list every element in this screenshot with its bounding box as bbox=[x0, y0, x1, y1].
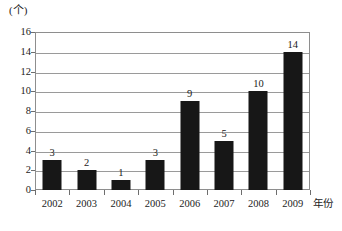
x-tick-label: 2004 bbox=[104, 198, 138, 210]
x-tick-label: 2002 bbox=[35, 198, 69, 210]
x-tick-mark bbox=[138, 190, 139, 195]
bar-value-label: 14 bbox=[288, 39, 299, 50]
bar-value-label: 3 bbox=[50, 147, 55, 158]
y-tick-label: 12 bbox=[5, 67, 31, 77]
bar-group: 1 bbox=[104, 32, 138, 190]
bar-value-label: 10 bbox=[253, 78, 264, 89]
y-tick-label: 2 bbox=[5, 165, 31, 175]
bar-value-label: 1 bbox=[118, 167, 123, 178]
bar-value-label: 2 bbox=[84, 157, 89, 168]
y-tick-label: 16 bbox=[5, 27, 31, 37]
bar-group: 14 bbox=[276, 32, 310, 190]
x-tick-mark bbox=[173, 190, 174, 195]
x-tick-label: 2008 bbox=[241, 198, 275, 210]
bar-group: 3 bbox=[138, 32, 172, 190]
bar-group: 10 bbox=[241, 32, 275, 190]
x-tick-label: 2003 bbox=[69, 198, 103, 210]
x-tick-label: 2009 bbox=[276, 198, 310, 210]
y-tick-label: 4 bbox=[5, 146, 31, 156]
x-tick-mark bbox=[310, 190, 311, 195]
x-tick-mark bbox=[69, 190, 70, 195]
bar[interactable] bbox=[77, 170, 96, 190]
bar-chart: (个) 1614121086420 3213951014 20022003200… bbox=[0, 0, 342, 231]
x-axis-title: 年份 bbox=[313, 198, 333, 210]
bar-group: 5 bbox=[207, 32, 241, 190]
bar[interactable] bbox=[249, 91, 268, 190]
bar-group: 3 bbox=[35, 32, 69, 190]
bar[interactable] bbox=[180, 101, 199, 190]
y-axis-unit-label: (个) bbox=[9, 4, 27, 17]
bar[interactable] bbox=[111, 180, 130, 190]
bar[interactable] bbox=[283, 52, 302, 190]
bar[interactable] bbox=[146, 160, 165, 190]
x-tick-mark bbox=[104, 190, 105, 195]
bars-layer: 3213951014 bbox=[35, 32, 310, 190]
y-tick-label: 0 bbox=[5, 185, 31, 195]
bar-value-label: 5 bbox=[221, 128, 226, 139]
y-tick-label: 8 bbox=[5, 106, 31, 116]
x-tick-mark bbox=[35, 190, 36, 195]
x-tick-mark bbox=[276, 190, 277, 195]
bar[interactable] bbox=[43, 160, 62, 190]
bar[interactable] bbox=[215, 141, 234, 190]
y-tick-label: 14 bbox=[5, 47, 31, 57]
y-tick-label: 10 bbox=[5, 86, 31, 96]
x-tick-label: 2005 bbox=[138, 198, 172, 210]
bar-value-label: 9 bbox=[187, 88, 192, 99]
bar-group: 2 bbox=[69, 32, 103, 190]
x-tick-label: 2006 bbox=[173, 198, 207, 210]
bar-value-label: 3 bbox=[153, 147, 158, 158]
x-tick-mark bbox=[241, 190, 242, 195]
bar-group: 9 bbox=[173, 32, 207, 190]
x-tick-mark bbox=[207, 190, 208, 195]
x-tick-label: 2007 bbox=[207, 198, 241, 210]
y-tick-label: 6 bbox=[5, 126, 31, 136]
